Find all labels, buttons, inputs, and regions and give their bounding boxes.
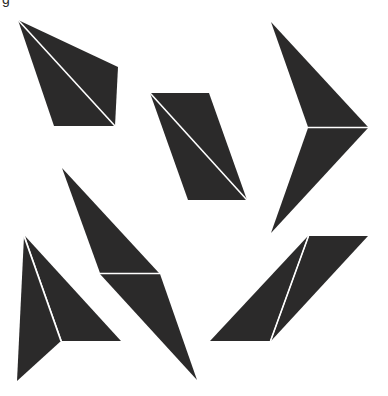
dart-center-left-triangle-2 xyxy=(100,274,197,380)
arrow-right-triangle-2 xyxy=(271,128,368,233)
dart-center-left xyxy=(62,168,197,380)
kite-top-left xyxy=(18,20,118,126)
arrow-right-triangle-1 xyxy=(271,22,368,127)
parallelogram-center xyxy=(150,93,247,200)
dart-center-left-triangle-1 xyxy=(62,168,159,273)
tangram-figure xyxy=(0,0,388,396)
arrow-right xyxy=(271,22,368,233)
parallelogram-bottom-right xyxy=(210,236,368,341)
